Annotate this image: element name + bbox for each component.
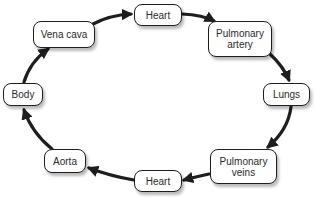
node-aorta: Aorta [44, 149, 86, 173]
arrow-body-to-vena-cava [24, 49, 48, 82]
node-label: Heart [146, 10, 170, 21]
node-heart-bottom: Heart [134, 170, 182, 192]
arrow-pulmonary-artery-to-lungs [270, 54, 289, 80]
node-label-line-2: veins [232, 167, 255, 178]
arrow-vena-cava-to-heart [93, 14, 131, 24]
node-label: Heart [146, 176, 170, 187]
node-label: Lungs [273, 89, 300, 100]
node-label: Aorta [53, 156, 77, 167]
node-label: Vena cava [41, 29, 88, 40]
node-label-line-1: Pulmonary [216, 28, 264, 39]
arrow-heart-to-aorta [89, 168, 134, 180]
arrow-lungs-to-pulmonary-veins [268, 107, 291, 147]
node-label-line-1: Pulmonary [220, 156, 268, 167]
node-lungs: Lungs [263, 83, 310, 106]
node-label-line-2: artery [227, 39, 253, 50]
node-body: Body [3, 83, 43, 106]
node-vena-cava: Vena cava [33, 21, 95, 48]
arrow-aorta-to-body [24, 110, 52, 149]
node-label: Body [12, 89, 35, 100]
node-pulmonary-artery: Pulmonary artery [208, 21, 272, 57]
arrow-heart-to-pulmonary-artery [182, 14, 214, 21]
node-pulmonary-veins: Pulmonary veins [210, 149, 277, 184]
arrow-pulmonary-veins-to-heart [184, 174, 209, 180]
node-heart-top: Heart [134, 4, 182, 26]
